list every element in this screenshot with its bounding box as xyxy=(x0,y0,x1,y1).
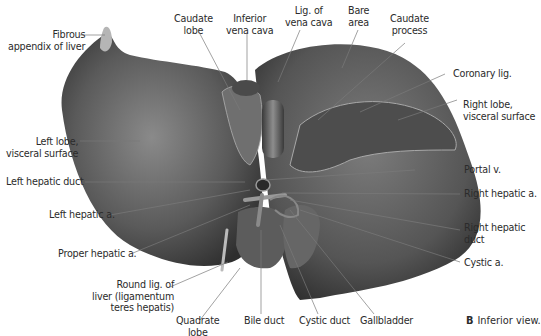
label-line: lobe xyxy=(176,327,220,336)
label-line: process xyxy=(390,25,429,37)
label-fibrous-appendix: Fibrous appendix of liver xyxy=(8,29,85,52)
caption-panel-letter: B xyxy=(466,315,473,326)
label-line: Portal v. xyxy=(464,164,501,176)
label-line: vena cava xyxy=(226,25,274,37)
label-right-lobe: Right lobe, visceral surface xyxy=(463,99,535,122)
label-line: lobe xyxy=(174,25,213,37)
figure-caption: BInferior view. xyxy=(466,315,541,326)
label-left-hepatic-artery: Left hepatic a. xyxy=(49,209,115,221)
label-left-lobe: Left lobe, visceral surface xyxy=(6,136,78,159)
quadrate-lobe-shape xyxy=(236,207,287,268)
label-line: Bare xyxy=(348,5,369,17)
label-line: vena cava xyxy=(285,17,333,29)
inferior-vena-cava-shape xyxy=(232,80,260,96)
label-gallbladder: Gallbladder xyxy=(360,315,413,327)
portal-vein-shape xyxy=(256,179,270,191)
caption-text: Inferior view. xyxy=(477,315,540,326)
label-line: visceral surface xyxy=(463,111,535,123)
label-line: Quadrate xyxy=(176,315,220,327)
label-bile-duct: Bile duct xyxy=(244,315,284,327)
label-line: Left hepatic a. xyxy=(49,209,115,221)
label-line: Caudate xyxy=(174,13,213,25)
label-lig-vena-cava: Lig. of vena cava xyxy=(285,5,333,28)
label-line: Lig. of xyxy=(285,5,333,17)
label-portal-vein: Portal v. xyxy=(464,164,501,176)
label-line: Cystic duct xyxy=(299,315,350,327)
label-cystic-artery: Cystic a. xyxy=(464,257,503,269)
label-proper-hepatic-artery: Proper hepatic a. xyxy=(58,248,136,260)
label-caudate-process: Caudate process xyxy=(390,13,429,36)
label-line: Caudate xyxy=(390,13,429,25)
label-line: area xyxy=(348,17,369,29)
label-line: duct xyxy=(464,234,525,246)
label-line: teres hepatis) xyxy=(92,302,174,314)
label-line: liver (ligamentum xyxy=(92,291,174,303)
label-line: Fibrous xyxy=(8,29,85,41)
label-line: Left hepatic duct xyxy=(6,176,84,188)
label-quadrate-lobe: Quadrate lobe xyxy=(176,315,220,336)
label-line: Bile duct xyxy=(244,315,284,327)
label-line: Cystic a. xyxy=(464,257,503,269)
label-left-hepatic-duct: Left hepatic duct xyxy=(6,176,84,188)
label-bare-area: Bare area xyxy=(348,5,369,28)
label-line: appendix of liver xyxy=(8,41,85,53)
label-line: Right lobe, xyxy=(463,99,535,111)
label-round-ligament: Round lig. of liver (ligamentum teres he… xyxy=(92,279,174,314)
label-caudate-lobe: Caudate lobe xyxy=(174,13,213,36)
label-line: Left lobe, xyxy=(6,136,78,148)
label-coronary-lig: Coronary lig. xyxy=(453,68,512,80)
label-right-hepatic-duct: Right hepatic duct xyxy=(464,222,525,245)
left-lobe-shape xyxy=(62,32,263,266)
label-line: Right hepatic a. xyxy=(464,188,537,200)
label-cystic-duct: Cystic duct xyxy=(299,315,350,327)
label-line: Coronary lig. xyxy=(453,68,512,80)
label-line: visceral surface xyxy=(6,148,78,160)
label-right-hepatic-artery: Right hepatic a. xyxy=(464,188,537,200)
label-line: Gallbladder xyxy=(360,315,413,327)
label-line: Inferior xyxy=(226,13,274,25)
label-line: Round lig. of xyxy=(92,279,174,291)
label-line: Right hepatic xyxy=(464,222,525,234)
label-inferior-vena-cava: Inferior vena cava xyxy=(226,13,274,36)
label-line: Proper hepatic a. xyxy=(58,248,136,260)
